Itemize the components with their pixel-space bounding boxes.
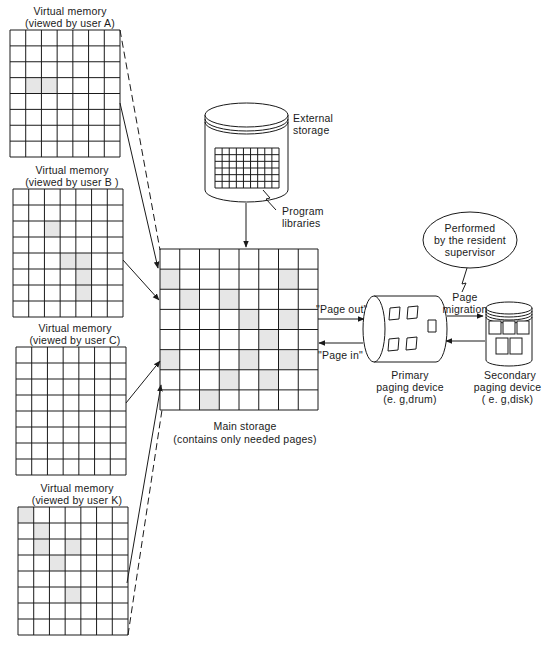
main-storage-shaded-cell — [180, 289, 200, 309]
vm-grid-c — [16, 347, 126, 475]
primary-device-title: Primary — [365, 369, 455, 381]
vm-a-title: Virtual memory — [20, 5, 120, 17]
vm-connectors — [120, 30, 162, 635]
supervisor-line-2: by the resident — [425, 234, 515, 246]
page-migration-label-1: Page — [440, 291, 490, 303]
vm-grid-b-shaded-cell — [76, 269, 92, 285]
supervisor-line-1: Performed — [425, 222, 515, 234]
main-storage-shaded-cell — [279, 350, 299, 370]
secondary-device-title: Secondary — [470, 369, 545, 381]
vm-c-subtitle: (viewed by user C) — [20, 334, 130, 346]
drum-icon — [363, 296, 447, 362]
main-storage-shaded-cell — [259, 330, 279, 350]
vm-grid-a-shaded-cell — [41, 78, 57, 94]
vm-grid-b-shaded-cell — [76, 253, 92, 269]
vm-grid-k-shaded-cell — [65, 587, 81, 603]
vm-grid-b-shaded-cell — [60, 253, 76, 269]
primary-device-example: (e. g,drum) — [365, 393, 455, 405]
connector-k-dashed — [128, 410, 162, 635]
vm-grid-k-shaded-cell — [18, 507, 34, 523]
vm-grid-a-shaded-cell — [26, 78, 42, 94]
vm-grid-k-shaded-cell — [49, 555, 65, 571]
main-storage-shaded-cell — [239, 350, 259, 370]
main-storage-grid — [160, 249, 318, 410]
main-storage-shaded-cell — [160, 350, 180, 370]
vm-grid-k-shaded-cell — [65, 539, 81, 555]
main-storage-subtitle: (contains only needed pages) — [160, 433, 330, 445]
disk-icon — [486, 302, 532, 366]
external-storage-cylinder-icon — [205, 103, 288, 210]
connector-k-solid — [127, 385, 161, 583]
main-storage-shaded-cell — [279, 309, 299, 329]
page-migration-label-2: migration — [440, 303, 490, 315]
connector-b — [123, 260, 159, 300]
main-storage-shaded-cell — [219, 370, 239, 390]
secondary-device-subtitle: paging device — [465, 381, 545, 393]
vm-b-title: Virtual memory — [22, 164, 122, 176]
connector-c — [126, 361, 160, 403]
vm-k-title: Virtual memory — [27, 482, 127, 494]
vm-grid-k-shaded-cell — [34, 523, 50, 539]
primary-device-subtitle: paging device — [365, 381, 455, 393]
main-storage-shaded-cell — [259, 370, 279, 390]
vm-grid-b — [13, 189, 123, 317]
vm-grid-k-shaded-cell — [34, 539, 50, 555]
main-storage-shaded-cell — [160, 269, 180, 289]
supervisor-line-3: supervisor — [425, 246, 515, 258]
vm-c-title: Virtual memory — [25, 322, 125, 334]
program-libraries-label: Program libraries — [282, 205, 327, 229]
vm-a-subtitle: (viewed by user A) — [15, 17, 125, 29]
vm-b-subtitle: (viewed by user B ) — [17, 176, 127, 188]
vm-grid-b-shaded-cell — [76, 285, 92, 301]
main-storage-shaded-cell — [219, 289, 239, 309]
main-storage-shaded-cell — [200, 390, 220, 410]
main-storage-shaded-cell — [239, 309, 259, 329]
secondary-device-example: ( e. g,disk) — [465, 393, 545, 405]
vm-grid-k — [18, 507, 128, 635]
vm-grid-b-shaded-cell — [44, 221, 60, 237]
main-storage-title: Main storage — [170, 420, 320, 432]
main-storage-shaded-cell — [279, 269, 299, 289]
connector-a-dashed — [120, 30, 160, 250]
page-out-label: "Page out" — [316, 303, 366, 315]
vm-k-subtitle: (viewed by user K) — [22, 494, 132, 506]
external-storage-title: External storage — [293, 112, 338, 136]
page-in-label: "Page in" — [318, 349, 362, 361]
vm-grid-a — [10, 30, 120, 157]
